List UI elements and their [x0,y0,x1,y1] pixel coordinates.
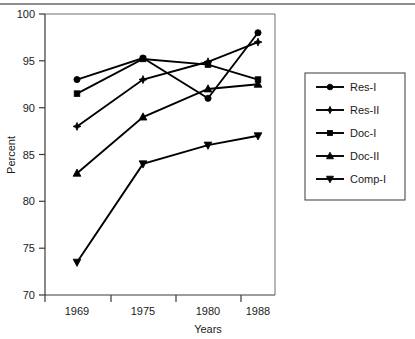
series-line [77,59,258,94]
y-axis-title: Percent [5,136,17,174]
series-line [77,84,258,173]
y-tick-label: 100 [17,8,35,20]
x-axis-tick-labels: 1969 1975 1980 1988 [65,305,270,317]
y-tick-label: 85 [23,149,35,161]
y-tick-label: 95 [23,55,35,67]
data-point-marker [254,38,262,46]
y-axis-ticks [39,14,45,295]
y-tick-label: 75 [23,242,35,254]
x-axis-title: Years [194,323,222,335]
series-res-ii [73,38,262,130]
legend-label: Res-I [350,81,376,93]
legend-label: Doc-I [350,127,376,139]
y-tick-label: 90 [23,102,35,114]
series-doc-ii [73,80,262,176]
series-line [77,42,258,126]
series-line [77,33,258,99]
legend-sample-marker [327,130,332,135]
legend-label: Doc-II [350,150,379,162]
legend-label: Res-II [350,104,379,116]
y-tick-label: 70 [23,289,35,301]
series-res-i [74,30,261,102]
data-point-marker [205,95,211,101]
series-doc-i [74,56,261,96]
x-tick-label: 1969 [65,305,89,317]
data-point-marker [205,62,211,68]
series-layer [73,30,262,267]
data-point-marker [74,91,80,97]
data-point-marker [73,259,81,266]
y-tick-label: 80 [23,195,35,207]
x-axis-ticks [45,295,241,302]
legend-label: Comp-I [350,173,386,185]
chart-figure: 100 95 90 85 80 75 70 1969 1975 1980 198… [0,0,415,339]
legend-sample-marker [327,84,333,90]
series-line [77,136,258,262]
top-rule [0,3,415,5]
data-point-marker [140,56,146,62]
line-chart-canvas: 100 95 90 85 80 75 70 1969 1975 1980 198… [0,0,415,339]
data-point-marker [74,76,80,82]
y-axis-tick-labels: 100 95 90 85 80 75 70 [17,8,35,301]
data-point-marker [255,30,261,36]
x-tick-label: 1975 [131,305,155,317]
x-tick-label: 1980 [196,305,220,317]
x-tick-label: 1988 [246,305,270,317]
